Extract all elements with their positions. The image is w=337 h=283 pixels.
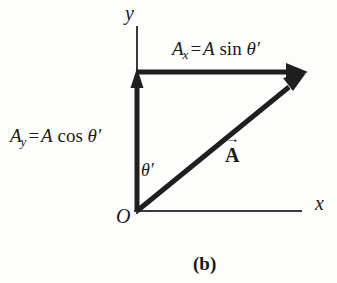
y-component-symbol: A bbox=[10, 125, 22, 146]
x-component-label: Ax=A sin θ′ bbox=[172, 39, 260, 61]
y-component-equals: = bbox=[28, 125, 39, 146]
x-component-arrow bbox=[137, 63, 308, 81]
vector-A-label: A bbox=[225, 145, 239, 165]
x-component-symbol: A bbox=[172, 38, 184, 59]
y-component-subscript: y bbox=[21, 134, 27, 149]
x-component-angle: θ′ bbox=[246, 38, 260, 59]
x-component-equals: = bbox=[190, 38, 201, 59]
y-component-label: Ay=A cos θ′ bbox=[10, 126, 101, 148]
x-axis-label: x bbox=[315, 193, 324, 213]
x-component-subscript: x bbox=[183, 47, 189, 62]
origin-label: O bbox=[116, 206, 130, 226]
figure-caption: (b) bbox=[193, 253, 216, 275]
vector-A-arrow bbox=[137, 73, 306, 211]
x-component-function: sin bbox=[219, 38, 241, 59]
angle-theta-label: θ′ bbox=[141, 161, 154, 179]
y-component-magnitude: A bbox=[41, 125, 53, 146]
y-component-function: cos bbox=[57, 125, 82, 146]
y-component-arrow bbox=[131, 68, 144, 211]
vector-A-letter: A bbox=[225, 145, 239, 165]
x-component-magnitude: A bbox=[203, 38, 215, 59]
y-axis-label: y bbox=[125, 3, 134, 23]
y-component-angle: θ′ bbox=[88, 125, 102, 146]
